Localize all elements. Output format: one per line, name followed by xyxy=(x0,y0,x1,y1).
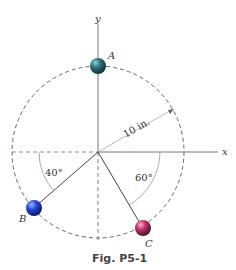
rotor-diagram: y x A B C 10 in. 40° 60° Fig. P5-1 xyxy=(0,0,236,270)
arm-c xyxy=(98,152,141,225)
x-axis-label: x xyxy=(222,146,228,157)
mass-c xyxy=(135,220,151,236)
mass-b xyxy=(26,200,42,216)
mass-c-label: C xyxy=(145,238,153,249)
mass-b-label: B xyxy=(18,213,26,224)
radius-arrowhead xyxy=(168,109,174,114)
y-axis-label: y xyxy=(94,13,101,24)
angle-label-60: 60° xyxy=(135,172,153,183)
mass-a xyxy=(90,58,106,74)
figure-caption: Fig. P5-1 xyxy=(92,252,147,265)
radius-label: 10 in. xyxy=(121,116,151,140)
angle-label-40: 40° xyxy=(45,167,63,178)
mass-a-label: A xyxy=(107,50,115,61)
